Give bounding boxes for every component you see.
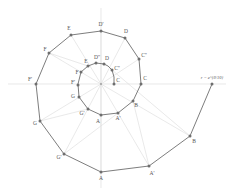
point-label-fp: F' [28, 77, 32, 83]
point-fo [48, 52, 51, 55]
point-label-ia: A [96, 119, 100, 125]
point-ao [100, 171, 103, 174]
point-label-co: C [143, 76, 147, 82]
point-label-gp: G' [57, 155, 62, 161]
point-cpp [138, 58, 141, 61]
radial-ray [101, 84, 190, 136]
point-label-idpp: D'' [94, 55, 100, 61]
point-gp [63, 153, 66, 156]
point-label-do: D [124, 29, 128, 35]
point-label-dp: D' [99, 22, 104, 28]
point-label-ap: A' [150, 171, 155, 177]
point-label-ic2: C'' [114, 66, 120, 72]
point-iap [117, 112, 120, 115]
radial-ray [101, 84, 149, 166]
point-do [124, 37, 127, 40]
point-ap [148, 165, 151, 168]
point-label-ib: B [134, 103, 138, 109]
point-label-e: E [67, 26, 70, 32]
spiral-curve [36, 31, 212, 172]
point-ic2 [111, 69, 114, 72]
equation-label: r = e^{θ/10} [201, 76, 224, 81]
point-fp [35, 83, 38, 86]
point-e [70, 34, 73, 37]
point-label-ao: A [99, 176, 103, 182]
diagram-canvas [0, 0, 229, 195]
point-end [211, 83, 214, 86]
point-ifp [77, 84, 80, 87]
point-label-bo: B [192, 139, 196, 145]
point-igp [87, 108, 90, 111]
point-label-fo: F [43, 47, 46, 53]
axes [8, 8, 226, 188]
origin-point [100, 83, 102, 85]
point-bo [189, 135, 192, 138]
spiral-diagram: D'EFF'GG'AA'BDC''CBA'AG'GF'FED''DC''C r … [0, 0, 229, 195]
point-dp [100, 30, 103, 33]
construction-line [49, 53, 88, 66]
point-ig [78, 96, 81, 99]
radial-rays [40, 31, 190, 172]
spiral-points [35, 30, 214, 174]
point-label-igp: G' [80, 111, 85, 117]
point-ie [87, 65, 90, 68]
point-ia [100, 114, 103, 117]
point-label-ic: C [116, 78, 120, 84]
point-go [39, 120, 42, 123]
construction-line [112, 70, 190, 136]
point-id [103, 63, 106, 66]
point-if [80, 71, 83, 74]
point-label-id: D [105, 56, 109, 62]
point-label-cpp: C'' [141, 53, 147, 59]
radial-ray [40, 84, 101, 121]
point-label-iap: A' [116, 116, 121, 122]
point-label-ig: G [71, 94, 75, 100]
point-idpp [95, 62, 98, 65]
point-ic [113, 83, 116, 86]
point-label-if: F [75, 70, 78, 76]
point-co [140, 83, 143, 86]
point-label-ifp: F' [71, 80, 75, 86]
point-label-go: G [33, 121, 37, 127]
construction-line [64, 113, 118, 154]
point-label-ie: E [84, 59, 87, 65]
